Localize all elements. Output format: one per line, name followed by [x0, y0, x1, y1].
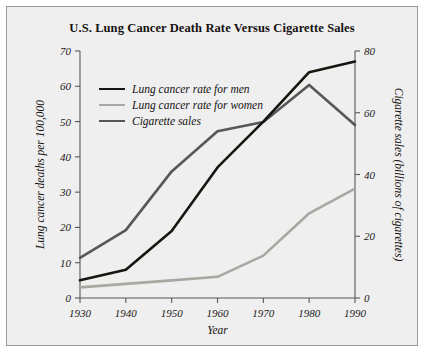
legend-item: Cigarette sales	[99, 113, 263, 129]
legend-label: Cigarette sales	[132, 115, 201, 127]
chart-legend: Lung cancer rate for menLung cancer rate…	[99, 81, 263, 129]
legend-swatch-icon	[99, 104, 125, 106]
y-right-tick-label: 60	[364, 107, 376, 119]
legend-swatch-icon	[99, 88, 125, 90]
legend-swatch-icon	[99, 120, 125, 122]
y-right-tick-label: 20	[364, 230, 376, 242]
legend-item: Lung cancer rate for men	[99, 81, 263, 97]
chart-title: U.S. Lung Cancer Death Rate Versus Cigar…	[7, 21, 417, 36]
y-right-tick-label: 80	[364, 45, 376, 57]
y-left-tick-label: 10	[60, 257, 72, 269]
y-right-axis-title: Cigarette sales (billions of cigarettes)	[392, 88, 405, 262]
x-tick-label: 1960	[207, 307, 230, 319]
y-right-tick-label: 0	[364, 292, 370, 304]
legend-item: Lung cancer rate for women	[99, 97, 263, 113]
legend-label: Lung cancer rate for women	[132, 99, 263, 111]
x-tick-label: 1950	[161, 307, 184, 319]
x-tick-label: 1980	[298, 307, 321, 319]
y-left-tick-label: 60	[60, 80, 72, 92]
x-tick-label: 1940	[115, 307, 138, 319]
y-left-tick-label: 20	[60, 221, 72, 233]
series-line	[80, 189, 355, 288]
x-tick-label: 1930	[69, 307, 92, 319]
x-tick-label: 1970	[252, 307, 274, 319]
y-left-tick-label: 40	[60, 151, 72, 163]
y-left-tick-label: 30	[59, 186, 72, 198]
y-left-tick-label: 70	[60, 45, 72, 57]
y-right-tick-label: 40	[364, 169, 376, 181]
chart-figure: U.S. Lung Cancer Death Rate Versus Cigar…	[6, 6, 418, 346]
y-left-tick-label: 50	[60, 116, 72, 128]
x-tick-label: 1990	[344, 307, 367, 319]
legend-label: Lung cancer rate for men	[132, 83, 250, 95]
x-axis-title: Year	[207, 324, 228, 336]
y-left-axis-title: Lung cancer deaths per 100,000	[34, 100, 47, 250]
y-left-tick-label: 0	[66, 292, 72, 304]
